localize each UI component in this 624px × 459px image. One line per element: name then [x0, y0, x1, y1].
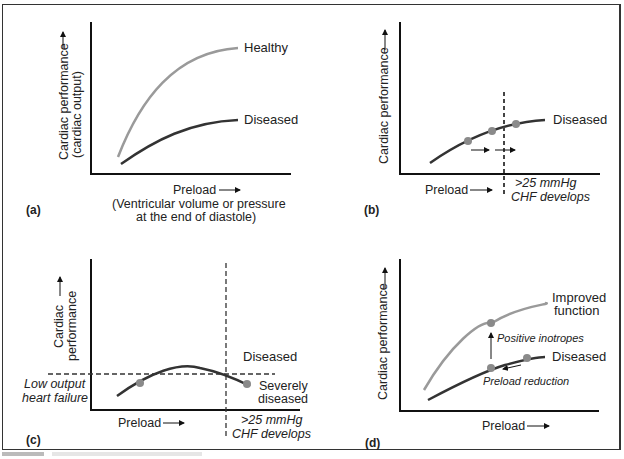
y-axis-label-a: Cardiac performance: [57, 43, 71, 160]
threshold-label-c1: >25 mmHg: [241, 413, 303, 427]
x-axis-sublabel-a1: (Ventricular volume or pressure: [112, 197, 286, 211]
severe-label-1: Severely: [259, 379, 308, 393]
panel-label-c: (c): [26, 433, 41, 447]
threshold-label-b2: CHF develops: [511, 190, 590, 204]
annotation-inotropes: Positive inotropes: [497, 332, 584, 344]
caption-bar: [2, 452, 44, 456]
panel-label-b: (b): [364, 203, 379, 217]
label-improved-2: function: [554, 303, 600, 318]
label-healthy: Healthy: [244, 40, 289, 55]
label-diseased-b: Diseased: [553, 112, 607, 127]
y-axis-label-d: Cardiac performance: [376, 283, 390, 400]
x-axis-sublabel-a2: at the end of diastole): [136, 210, 256, 224]
marker-point: [487, 319, 495, 327]
threshold-label-c2: CHF develops: [232, 427, 311, 441]
low-output-label-1: Low output: [24, 377, 86, 391]
label-diseased: Diseased: [244, 112, 298, 127]
marker-point: [488, 127, 496, 135]
y-axis-label-b: Cardiac performance: [377, 47, 391, 164]
x-axis-label-b: Preload: [425, 183, 468, 197]
figure-canvas: Healthy Diseased Cardiac performance (ca…: [0, 0, 624, 459]
panel-c: Diseased Low output heart failure Severe…: [22, 259, 311, 447]
healthy-curve: [118, 48, 238, 157]
marker-point: [487, 364, 495, 372]
marker-point: [512, 120, 520, 128]
marker-point: [136, 379, 144, 387]
panel-label-d: (d): [365, 436, 380, 450]
y-axis-label-c1: Cardiac: [52, 305, 66, 348]
marker-point: [243, 380, 251, 388]
x-axis-label-c: Preload: [118, 416, 161, 430]
panel-b: Diseased Cardiac performance Preload >25…: [364, 22, 607, 217]
low-output-label-2: heart failure: [22, 391, 88, 405]
label-diseased-c: Diseased: [243, 349, 297, 364]
diseased-curve: [121, 120, 238, 164]
panel-label-a: (a): [26, 203, 41, 217]
panel-d: Positive inotropes Preload reduction Imp…: [365, 259, 606, 450]
severe-label-2: diseased: [258, 392, 308, 406]
y-axis-label-c2: performance: [65, 291, 79, 361]
y-axis-sublabel-a: (cardiac output): [70, 71, 84, 158]
x-axis-label-d: Preload: [482, 419, 525, 433]
marker-point: [523, 354, 531, 362]
annotation-preload: Preload reduction: [483, 375, 569, 387]
caption-faint: [52, 452, 202, 456]
label-diseased-d: Diseased: [552, 349, 606, 364]
diseased-curve-b: [430, 120, 545, 163]
x-axis-label-a: Preload: [173, 183, 216, 197]
marker-point: [464, 137, 472, 145]
threshold-label-b1: >25 mmHg: [515, 176, 577, 190]
panel-a: Healthy Diseased Cardiac performance (ca…: [26, 22, 298, 224]
